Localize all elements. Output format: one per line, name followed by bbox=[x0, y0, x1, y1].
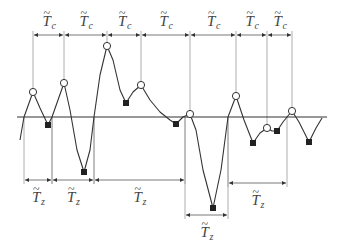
crest-period-label: Tc~ bbox=[43, 6, 57, 31]
trough-square-icon bbox=[123, 100, 129, 106]
svg-text:~: ~ bbox=[119, 6, 126, 20]
crest-period-label: Tc~ bbox=[160, 6, 174, 31]
crest-circle-icon bbox=[288, 107, 295, 114]
svg-text:c: c bbox=[255, 20, 260, 31]
svg-text:~: ~ bbox=[161, 6, 168, 20]
zero-period-label: Tz~ bbox=[67, 182, 80, 207]
trough-square-icon bbox=[173, 121, 179, 127]
zero-period-label: Tz~ bbox=[201, 217, 214, 242]
svg-text:z: z bbox=[260, 199, 265, 210]
svg-text:z: z bbox=[142, 196, 147, 207]
crest-period-label: Tc~ bbox=[207, 6, 221, 31]
svg-text:~: ~ bbox=[33, 182, 40, 196]
period-labels: Tc~Tc~Tc~Tc~Tc~Tc~Tc~Tz~Tz~Tz~Tz~Tz~ bbox=[32, 6, 288, 242]
svg-text:~: ~ bbox=[81, 6, 88, 20]
crest-circle-icon bbox=[60, 79, 67, 86]
crest-circle-icon bbox=[263, 124, 270, 131]
svg-text:~: ~ bbox=[275, 6, 282, 20]
svg-text:~: ~ bbox=[68, 182, 75, 196]
crest-circle-icon bbox=[186, 110, 193, 117]
trough-square-icon bbox=[81, 169, 87, 175]
svg-text:c: c bbox=[89, 20, 94, 31]
crest-circle-icon bbox=[29, 88, 36, 95]
trough-square-icon bbox=[250, 140, 256, 146]
trough-square-icon bbox=[306, 139, 312, 145]
zero-period-label: Tz~ bbox=[252, 185, 265, 210]
crest-circle-icon bbox=[137, 81, 144, 88]
svg-text:~: ~ bbox=[247, 6, 254, 20]
svg-text:z: z bbox=[209, 231, 214, 242]
crest-period-label: Tc~ bbox=[246, 6, 260, 31]
crest-circle-icon bbox=[103, 42, 110, 49]
svg-text:z: z bbox=[40, 196, 45, 207]
svg-text:~: ~ bbox=[208, 6, 215, 20]
zero-period-label: Tz~ bbox=[32, 182, 45, 207]
crest-circle-icon bbox=[232, 92, 239, 99]
trough-square-icon bbox=[210, 205, 216, 211]
waveform-curve bbox=[20, 46, 322, 208]
svg-text:z: z bbox=[75, 196, 80, 207]
svg-text:~: ~ bbox=[44, 6, 51, 20]
svg-text:c: c bbox=[216, 20, 221, 31]
svg-text:c: c bbox=[127, 20, 132, 31]
svg-text:c: c bbox=[169, 20, 174, 31]
crest-period-label: Tc~ bbox=[118, 6, 132, 31]
crest-period-label: Tc~ bbox=[80, 6, 94, 31]
crest-period-label: Tc~ bbox=[274, 6, 288, 31]
svg-text:c: c bbox=[283, 20, 288, 31]
svg-text:~: ~ bbox=[135, 182, 142, 196]
period-arrows bbox=[25, 35, 291, 215]
svg-text:~: ~ bbox=[202, 217, 209, 231]
svg-text:c: c bbox=[52, 20, 57, 31]
wave-period-diagram: Tc~Tc~Tc~Tc~Tc~Tc~Tc~Tz~Tz~Tz~Tz~Tz~ bbox=[0, 0, 340, 247]
trough-square-icon bbox=[274, 128, 280, 134]
trough-square-icon bbox=[45, 122, 51, 128]
zero-period-label: Tz~ bbox=[134, 182, 147, 207]
svg-text:~: ~ bbox=[253, 185, 260, 199]
